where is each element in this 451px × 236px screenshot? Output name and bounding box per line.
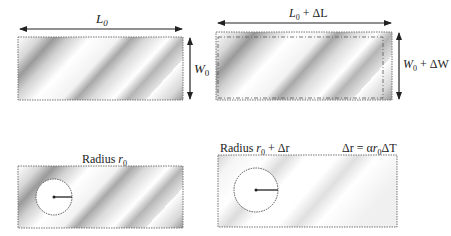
length-label: L0 + ΔL (288, 6, 328, 22)
expanded-plate (216, 32, 392, 100)
original-hole-panel: Radius r0 (18, 152, 183, 228)
original-plate (18, 37, 183, 100)
thermal-expansion-diagram: L0 W0 L0 + ΔL W0 + ΔW Radius r0 Radius r… (0, 0, 451, 236)
original-plate-panel: L0 W0 (18, 11, 210, 100)
expanded-hole-panel: Radius r0 + Δr Δr = αr0ΔT (218, 141, 397, 227)
width-label: W0 (194, 61, 210, 78)
expanded-plate-panel: L0 + ΔL W0 + ΔW (216, 6, 449, 100)
length-label: L0 (95, 11, 108, 28)
width-label: W0 + ΔW (403, 57, 449, 73)
